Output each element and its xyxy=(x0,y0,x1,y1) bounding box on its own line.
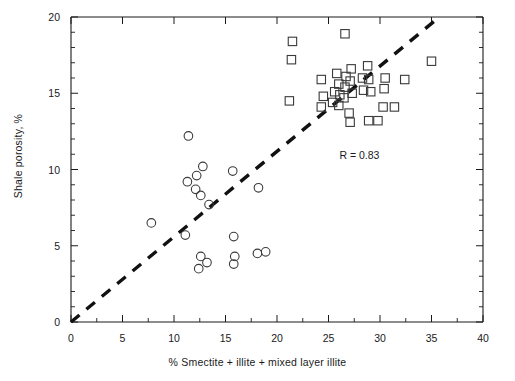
annotation-layer: R = 0.83 xyxy=(339,149,379,161)
data-point-square xyxy=(346,118,354,126)
trendline xyxy=(71,20,436,322)
data-point-circle xyxy=(184,132,193,141)
data-point-circle xyxy=(228,167,237,176)
x-tick-label: 40 xyxy=(477,332,489,344)
data-point-square xyxy=(379,103,387,111)
data-point-square xyxy=(288,37,296,45)
scatter-plot-figure: Shale porosity, % % Smectite + illite + … xyxy=(0,0,515,381)
axis-layer: 051015202530354005101520 xyxy=(48,11,489,344)
data-point-square xyxy=(287,56,295,64)
x-axis-title: % Smectite + illite + mixed layer illite xyxy=(0,356,515,368)
data-point-circle xyxy=(194,264,203,273)
data-point-circle xyxy=(192,171,201,180)
data-point-square xyxy=(341,30,349,38)
data-point-square xyxy=(381,74,389,82)
data-point-circle xyxy=(229,232,238,241)
data-point-square xyxy=(401,75,409,83)
data-point-circle xyxy=(254,184,263,193)
y-tick-label: 10 xyxy=(48,164,60,176)
data-point-circle xyxy=(147,219,156,228)
data-point-circle xyxy=(196,191,205,200)
x-tick-label: 30 xyxy=(374,332,386,344)
data-point-circle xyxy=(183,177,192,186)
data-point-square xyxy=(427,57,435,65)
correlation-annotation: R = 0.83 xyxy=(339,149,379,161)
trendline-layer xyxy=(71,20,436,322)
x-tick-label: 25 xyxy=(323,332,335,344)
x-tick-label: 15 xyxy=(220,332,232,344)
data-point-circle xyxy=(181,231,190,240)
y-tick-label: 20 xyxy=(48,11,60,23)
data-point-square xyxy=(319,92,327,100)
data-point-square xyxy=(317,75,325,83)
data-point-square xyxy=(363,62,371,70)
plot-canvas: 051015202530354005101520 R = 0.83 xyxy=(0,0,515,381)
data-point-square xyxy=(285,97,293,105)
data-point-circle xyxy=(203,258,212,267)
x-tick-label: 10 xyxy=(168,332,180,344)
data-point-square xyxy=(390,103,398,111)
data-point-square xyxy=(317,103,325,111)
data-point-square xyxy=(345,109,353,117)
x-tick-label: 5 xyxy=(120,332,126,344)
x-tick-label: 20 xyxy=(271,332,283,344)
data-point-square xyxy=(333,69,341,77)
y-axis-title: Shale porosity, % xyxy=(12,86,24,226)
data-point-square xyxy=(364,117,372,125)
y-tick-label: 0 xyxy=(54,316,60,328)
y-tick-label: 5 xyxy=(54,240,60,252)
x-tick-label: 0 xyxy=(68,332,74,344)
data-points-layer xyxy=(147,30,436,273)
x-tick-label: 35 xyxy=(426,332,438,344)
data-point-circle xyxy=(199,162,208,171)
data-point-square xyxy=(380,84,388,92)
data-point-square xyxy=(374,117,382,125)
data-point-circle xyxy=(261,248,270,257)
y-tick-label: 15 xyxy=(48,87,60,99)
data-point-circle xyxy=(253,249,262,258)
